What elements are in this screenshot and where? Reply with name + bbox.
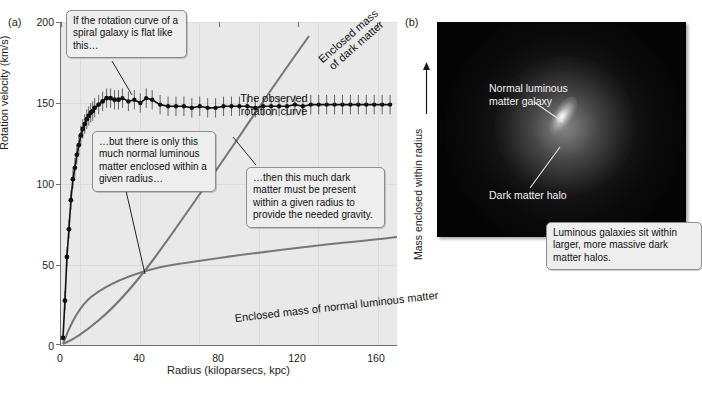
panel-b-galaxy-halo-image: (b) Mass enclosed within radius Normal l…: [400, 0, 702, 396]
callout-luminous-matter: …but there is only this much normal lumi…: [92, 131, 216, 192]
image-leader-lines: [437, 22, 686, 237]
leader-line-dark-halo: [530, 147, 560, 188]
leader-line-flat: [112, 61, 132, 95]
label-normal-galaxy-line1: Normal luminous: [489, 82, 568, 94]
callout-luminous-galaxies-within-halos: Luminous galaxies sit within larger, mor…: [546, 222, 702, 270]
y-axis-label: Rotation velocity (km/s): [0, 36, 10, 150]
leader-line-luminous: [124, 182, 145, 274]
panel-b-letter: (b): [405, 16, 418, 28]
panel-a-rotation-curve-chart: (a) 200 150 100 50 0 0 40 80 120 160: [0, 0, 415, 396]
x-axis-label: Radius (kiloparsecs, kpc): [60, 364, 397, 376]
label-normal-luminous-matter-galaxy: Normal luminous matter galaxy: [489, 82, 568, 107]
mass-axis-arrow-icon: [422, 62, 431, 114]
callout-flat-rotation-curve: If the rotation curve of a spiral galaxy…: [66, 10, 187, 58]
callout-dark-matter: …then this much dark matter must be pres…: [246, 167, 385, 228]
label-dark-matter-halo: Dark matter halo: [489, 189, 567, 202]
label-normal-galaxy-line2: matter galaxy: [489, 95, 552, 107]
leader-line-darkmatter: [233, 137, 256, 165]
dark-matter-halo-simulation-image: Normal luminous matter galaxy Dark matte…: [437, 22, 686, 237]
panel-b-y-axis-label: Mass enclosed within radius: [412, 129, 424, 260]
